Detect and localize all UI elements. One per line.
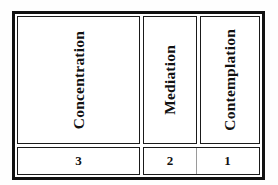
number-cell-mediation: 2 <box>144 148 196 174</box>
label-cell-concentration: Concentration <box>17 16 140 144</box>
table-frame: Concentration Mediation Contemplation 3 … <box>12 11 265 180</box>
label-text-mediation: Mediation <box>162 45 178 115</box>
label-cell-contemplation: Contemplation <box>200 16 261 144</box>
diagram-canvas: Concentration Mediation Contemplation 3 … <box>0 0 278 185</box>
number-cell-concentration: 3 <box>18 148 139 174</box>
label-text-contemplation: Contemplation <box>222 29 238 131</box>
number-cell-contemplation: 1 <box>196 148 258 174</box>
label-row: Concentration Mediation Contemplation <box>17 16 260 144</box>
label-cell-mediation: Mediation <box>143 16 197 144</box>
label-text-concentration: Concentration <box>71 31 87 129</box>
number-group-left: 3 <box>17 147 140 175</box>
number-row: 3 2 1 <box>17 147 260 175</box>
number-group-right: 2 1 <box>143 147 260 175</box>
